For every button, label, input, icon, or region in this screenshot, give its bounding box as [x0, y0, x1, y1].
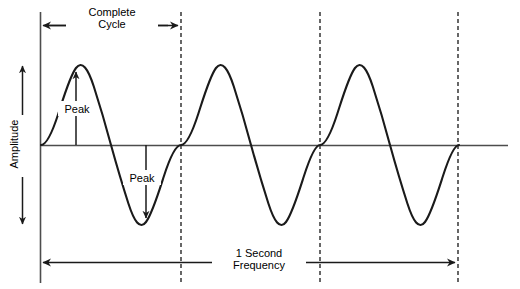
- frequency-axis-label: 1 Second Frequency: [215, 247, 303, 271]
- diagram-canvas: [0, 0, 520, 289]
- peak-top-label: Peak: [60, 103, 94, 115]
- complete-cycle-label: Complete Cycle: [70, 6, 154, 30]
- peak-bottom-label: Peak: [125, 172, 159, 184]
- waveform-diagram: Complete Cycle Peak Peak Amplitude 1 Sec…: [0, 0, 520, 289]
- amplitude-axis-label: Amplitude: [8, 109, 20, 179]
